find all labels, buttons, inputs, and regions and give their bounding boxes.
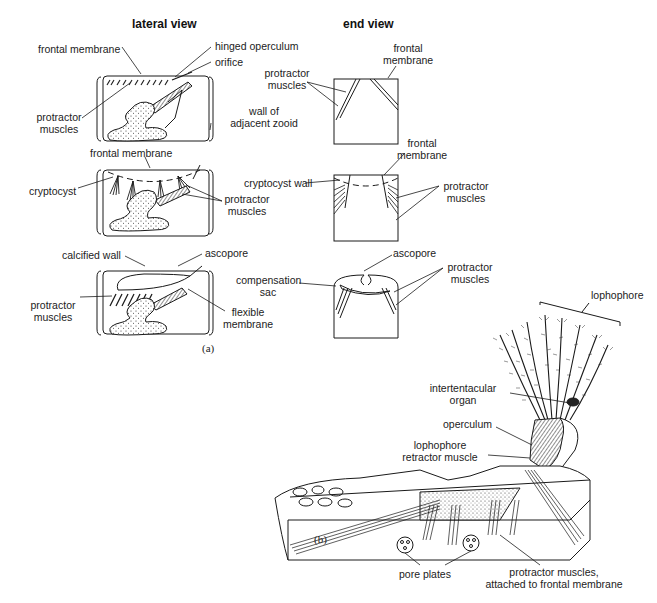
label-frontal-membrane-2: frontal membrane	[90, 147, 172, 159]
label-pore-plates: pore plates	[399, 568, 451, 580]
label-line-2: attached to frontal membrane	[485, 578, 622, 590]
label-line-1: compensation	[236, 274, 301, 286]
label-line-2: muscles	[268, 79, 307, 91]
label-line-2: organ	[450, 394, 477, 406]
label-line-2: muscles	[228, 205, 267, 217]
label-line-2: muscles	[40, 123, 79, 135]
label-line-2: muscles	[447, 192, 486, 204]
label-protractor-attached-frontal-membrane: protractor muscles, attached to frontal …	[474, 566, 634, 590]
label-line-2: sac	[260, 286, 276, 298]
label-line-2: muscles	[34, 311, 73, 323]
label-protractor-muscles-2: protractor muscles	[222, 193, 272, 217]
row1-end-drawing	[334, 79, 398, 144]
label-line-1: protractor	[37, 111, 82, 123]
label-line-2: membrane	[383, 54, 433, 66]
label-end-ascopore: ascopore	[393, 247, 436, 259]
label-line-1: protractor	[265, 67, 310, 79]
label-line-2: membrane	[397, 149, 447, 161]
label-line-2: membrane	[223, 318, 273, 330]
label-frontal-membrane: frontal membrane	[38, 43, 120, 55]
label-calcified-wall: calcified wall	[62, 249, 121, 261]
label-line-1: intertentacular	[430, 382, 497, 394]
label-cryptocyst: cryptocyst	[29, 185, 76, 197]
label-cryptocyst-wall: cryptocyst wall	[244, 177, 312, 189]
row3-lateral-drawing	[97, 266, 213, 335]
label-flexible-membrane: flexible membrane	[222, 306, 274, 330]
label-operculum: operculum	[443, 418, 492, 430]
end-view-header: end view	[343, 17, 394, 31]
label-line-1: protractor	[225, 193, 270, 205]
label-end-protractor-muscles: protractor muscles	[262, 67, 312, 91]
label-line-1: lophophore	[414, 439, 467, 451]
label-end-frontal-membrane-2: frontal membrane	[397, 137, 447, 161]
row2-lateral-drawing	[97, 165, 213, 236]
label-hinged-operculum: hinged operculum	[215, 40, 298, 52]
panel-b-drawing	[275, 302, 620, 565]
label-line-1: protractor	[31, 299, 76, 311]
label-end-protractor-muscles-2: protractor muscles	[441, 180, 491, 204]
label-orifice: orifice	[215, 56, 243, 68]
label-line-1: protractor muscles,	[509, 566, 598, 578]
label-line-1: protractor	[448, 261, 493, 273]
label-line-1: frontal	[393, 42, 422, 54]
row3-end-drawing	[334, 275, 398, 338]
panel-a-tag: (a)	[202, 342, 214, 354]
label-line-2: adjacent zooid	[230, 117, 298, 129]
bryozoan-zooid-diagram	[0, 0, 657, 603]
label-lophophore-retractor-muscle: lophophore retractor muscle	[393, 439, 487, 463]
label-line-1: protractor	[444, 180, 489, 192]
label-line-1: flexible	[232, 306, 265, 318]
label-line-2: muscles	[451, 273, 490, 285]
label-lophophore: lophophore	[591, 289, 644, 301]
label-intertentacular-organ: intertentacular organ	[418, 382, 508, 406]
label-end-protractor-muscles-3: protractor muscles	[445, 261, 495, 285]
label-protractor-muscles: protractor muscles	[34, 111, 84, 135]
label-compensation-sac: compensation sac	[236, 274, 300, 298]
row2-end-drawing	[334, 175, 398, 241]
lateral-view-header: lateral view	[132, 17, 197, 31]
label-line-2: retractor muscle	[402, 451, 477, 463]
row1-lateral-drawing	[97, 72, 213, 141]
label-end-frontal-membrane: frontal membrane	[383, 42, 433, 66]
label-protractor-muscles-3: protractor muscles	[28, 299, 78, 323]
label-ascopore: ascopore	[205, 247, 248, 259]
label-wall-of-adjacent-zooid: wall of adjacent zooid	[228, 105, 300, 129]
label-line-1: wall of	[249, 105, 279, 117]
panel-b-tag: (b)	[314, 533, 327, 545]
label-line-1: frontal	[407, 137, 436, 149]
